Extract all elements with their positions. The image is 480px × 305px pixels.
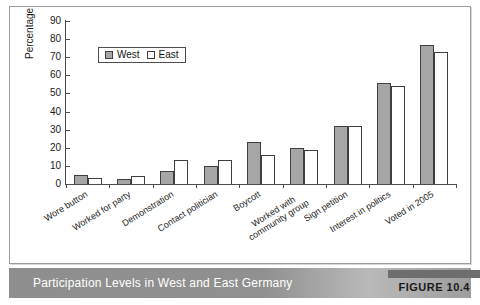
x-axis-tick: [153, 184, 154, 188]
bar-east: [391, 86, 405, 184]
bar-group: [369, 21, 412, 184]
bars-layer: [66, 21, 456, 184]
y-axis-tick-label: 50: [50, 88, 61, 98]
x-axis-labels: Wore buttonWorked for partyDemonstration…: [10, 187, 472, 265]
figure-root: Percentage 0102030405060708090 West East…: [0, 0, 480, 305]
bar-east: [261, 155, 275, 184]
bar-west: [160, 171, 174, 184]
y-axis-tick-label: 40: [50, 107, 61, 117]
legend-label-west: West: [117, 50, 140, 60]
bar-east: [434, 52, 448, 184]
figure-badge-label: FIGURE 10.4: [398, 281, 470, 293]
y-axis-tick-label: 60: [50, 70, 61, 80]
bar-east: [174, 160, 188, 184]
bar-group: [283, 21, 326, 184]
bar-west: [247, 142, 261, 184]
bar-group: [196, 21, 239, 184]
x-axis-line: [65, 184, 456, 185]
x-axis-tick: [326, 184, 327, 188]
bar-west: [334, 126, 348, 184]
y-axis-tick-label: 70: [50, 52, 61, 62]
y-axis-tick-label: 10: [50, 161, 61, 171]
legend-item-east: East: [147, 50, 179, 60]
bar-group: [66, 21, 109, 184]
y-axis-tick-label: 30: [50, 125, 61, 135]
x-axis-tick: [109, 184, 110, 188]
bar-west: [204, 166, 218, 184]
bar-group: [326, 21, 369, 184]
bar-east: [348, 126, 362, 184]
bar-group: [413, 21, 456, 184]
bar-west: [74, 175, 88, 184]
legend-swatch-west-icon: [105, 51, 113, 59]
chart-legend: West East: [98, 47, 186, 63]
bar-west: [290, 148, 304, 184]
x-axis-tick: [239, 184, 240, 188]
bar-group: [239, 21, 282, 184]
legend-swatch-east-icon: [147, 51, 155, 59]
y-axis-tick-label: 20: [50, 143, 61, 153]
x-axis-tick: [413, 184, 414, 188]
figure-caption-text: Participation Levels in West and East Ge…: [33, 276, 293, 290]
x-axis-tick: [196, 184, 197, 188]
bar-east: [88, 178, 102, 184]
bar-west: [377, 83, 391, 184]
x-axis-tick: [283, 184, 284, 188]
legend-label-east: East: [159, 50, 179, 60]
y-axis-tick-label: 80: [50, 34, 61, 44]
bar-east: [218, 160, 232, 184]
y-axis-title: Percentage: [24, 8, 35, 59]
bar-west: [117, 179, 131, 184]
bar-east: [304, 150, 318, 184]
x-axis-tick: [456, 184, 457, 188]
bar-group: [109, 21, 152, 184]
x-axis-tick: [66, 184, 67, 188]
y-axis-tick-label: 90: [50, 16, 61, 26]
bar-west: [420, 45, 434, 184]
legend-item-west: West: [105, 50, 140, 60]
x-axis-tick: [369, 184, 370, 188]
x-axis-label: Boycott: [232, 189, 263, 214]
figure-badge-block: [388, 270, 480, 278]
bar-east: [131, 176, 145, 184]
chart-frame: Percentage 0102030405060708090 West East…: [9, 6, 471, 264]
bar-group: [153, 21, 196, 184]
